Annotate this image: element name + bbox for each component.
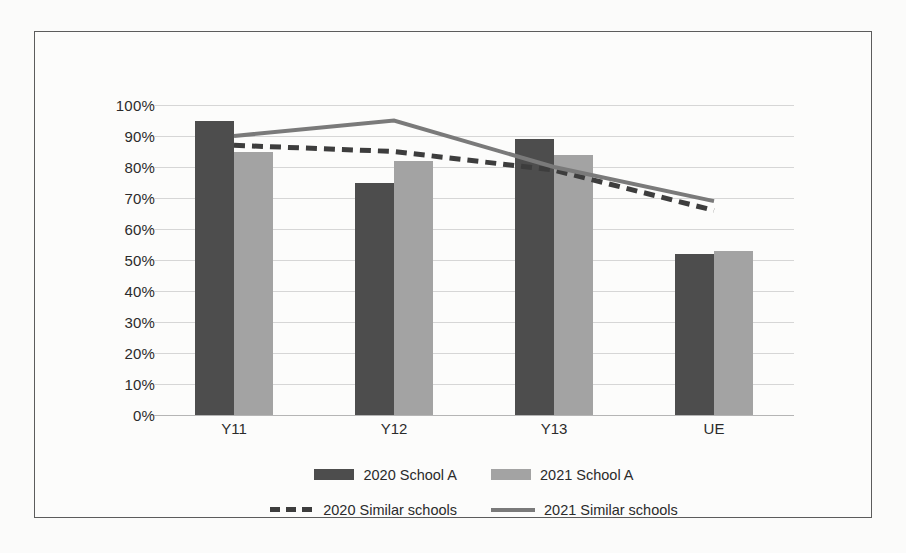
legend-row-lines: 2020 Similar schools2021 Similar schools xyxy=(154,492,794,527)
chart-frame: 0%10%20%30%40%50%60%70%80%90%100% Y11Y12… xyxy=(34,31,872,518)
x-axis-tick-label-y12: Y12 xyxy=(381,420,408,437)
legend-label: 2021 School A xyxy=(540,467,634,483)
legend-item[interactable]: 2021 Similar schools xyxy=(491,502,678,518)
y-axis-tick-label: 10% xyxy=(95,376,155,393)
y-axis-tick-label: 100% xyxy=(95,97,155,114)
plot-area xyxy=(154,105,794,415)
y-axis-tick-label: 90% xyxy=(95,128,155,145)
line-2020-similar-schools xyxy=(234,145,714,210)
y-axis-tick-label: 50% xyxy=(95,252,155,269)
y-axis-tick-label: 20% xyxy=(95,345,155,362)
legend-label: 2021 Similar schools xyxy=(544,502,678,518)
legend-item[interactable]: 2020 School A xyxy=(314,467,457,483)
y-axis-tick-label: 80% xyxy=(95,159,155,176)
y-axis-tick-label: 70% xyxy=(95,190,155,207)
legend-swatch-2021-similar-schools xyxy=(491,508,535,512)
gridline xyxy=(154,415,794,416)
x-axis-tick-label-y11: Y11 xyxy=(221,420,247,437)
chart-plot-wrapper: 0%10%20%30%40%50%60%70%80%90%100% Y11Y12… xyxy=(35,32,873,519)
line-layer xyxy=(154,105,794,415)
legend-item[interactable]: 2020 Similar schools xyxy=(270,502,457,518)
x-axis: Y11Y12Y13UE xyxy=(154,420,794,448)
x-axis-tick-label-ue: UE xyxy=(704,420,725,437)
y-axis-tick-label: 0% xyxy=(95,407,155,424)
x-axis-tick-label-y13: Y13 xyxy=(541,420,568,437)
y-axis-tick-label: 60% xyxy=(95,221,155,238)
legend-swatch-2020-similar-schools xyxy=(270,507,314,512)
y-axis-tick-label: 40% xyxy=(95,283,155,300)
legend-label: 2020 School A xyxy=(363,467,457,483)
chart-legend: 2020 School A2021 School A 2020 Similar … xyxy=(154,457,794,527)
legend-row-series: 2020 School A2021 School A xyxy=(154,457,794,492)
y-axis-tick-label: 30% xyxy=(95,314,155,331)
legend-swatch-2021-school-a xyxy=(491,469,531,480)
legend-swatch-2020-school-a xyxy=(314,469,354,480)
legend-item[interactable]: 2021 School A xyxy=(491,467,634,483)
legend-label: 2020 Similar schools xyxy=(323,502,457,518)
y-axis: 0%10%20%30%40%50%60%70%80%90%100% xyxy=(95,95,155,415)
